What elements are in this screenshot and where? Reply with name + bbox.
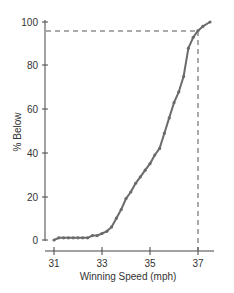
y-tick-label: 20 [27,192,39,203]
data-point [91,234,94,237]
x-ticks: 31 33 35 37 [48,247,204,269]
y-tick-label: 60 [27,104,39,115]
x-tick-label: 37 [192,258,204,269]
cumulative-line [54,22,210,240]
data-point [177,90,180,93]
data-point [76,236,79,239]
data-point [192,36,195,39]
data-point [67,236,70,239]
data-point [124,197,127,200]
data-point [163,132,166,135]
y-axis-title: % Below [12,112,23,152]
chart: 100 80 60 40 20 0 31 33 35 37 Winning Sp… [0,0,234,293]
x-axis-title: Winning Speed (mph) [80,271,177,282]
y-tick-label: 40 [27,148,39,159]
data-point [144,169,147,172]
data-point [57,236,60,239]
x-tick-label: 33 [96,258,108,269]
data-point [153,153,156,156]
y-tick-label: 80 [27,60,39,71]
y-tick-label: 100 [21,17,38,28]
data-point [158,147,161,150]
y-tick-label: 0 [32,235,38,246]
data-point [196,29,199,32]
data-point [187,47,190,50]
data-point [172,101,175,104]
data-point [62,236,65,239]
data-point [148,162,151,165]
data-point [100,232,103,235]
data-point [72,236,75,239]
data-point [134,182,137,185]
data-point [81,236,84,239]
y-ticks: 100 80 60 40 20 0 [21,17,48,246]
x-tick-label: 31 [48,258,60,269]
data-point [105,230,108,233]
data-point [120,208,123,211]
data-point [110,225,113,228]
data-point [115,217,118,220]
data-point [86,236,89,239]
data-point [129,190,132,193]
data-point [182,75,185,78]
data-point [139,175,142,178]
data-point [168,116,171,119]
data-point [208,20,211,23]
data-point [52,238,55,241]
data-point [201,25,204,28]
x-tick-label: 35 [144,258,156,269]
data-point [96,234,99,237]
